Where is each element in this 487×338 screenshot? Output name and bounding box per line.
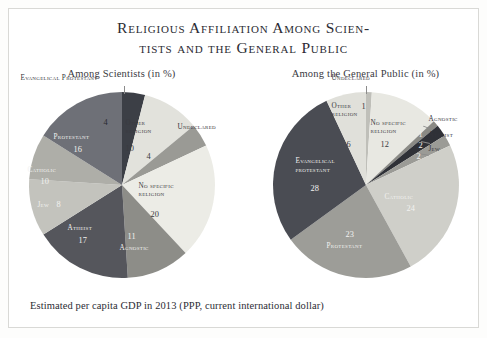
- page-title: Religious Affiliation Among Scien- tists…: [0, 18, 487, 58]
- leader-evangelical-protestant: [124, 86, 125, 94]
- page-title-line-2: tists and the General Public: [0, 38, 487, 58]
- label-undeclared: Undeclared: [178, 123, 216, 131]
- label-jew: Jew: [429, 145, 440, 153]
- chart-scientists-pie: Evangelical Protestant 4 Other religion …: [27, 90, 217, 280]
- label-evangelical-protestant: Evangelical Protestant: [21, 74, 98, 82]
- page-title-line-1: Religious Affiliation Among Scien-: [117, 19, 370, 36]
- chart-general-public: Among the General Public (in %): [244, 68, 487, 296]
- leader-undeclared: [366, 86, 367, 94]
- charts-container: Among Scientists (in %): [0, 68, 487, 296]
- chart-general-public-pie: Undeclared 1 Other religion 6 No specifi…: [271, 90, 461, 280]
- label-atheist: Atheist: [429, 131, 454, 139]
- figure-page: Religious Affiliation Among Scien- tists…: [0, 0, 487, 338]
- chart-scientists: Among Scientists (in %): [0, 68, 243, 296]
- label-agnostic: Agnostic: [429, 115, 458, 123]
- pie-svg-scientists: [27, 90, 217, 280]
- figure-caption: Estimated per capita GDP in 2013 (PPP, c…: [30, 300, 324, 311]
- label-undeclared: Undeclared: [332, 74, 370, 82]
